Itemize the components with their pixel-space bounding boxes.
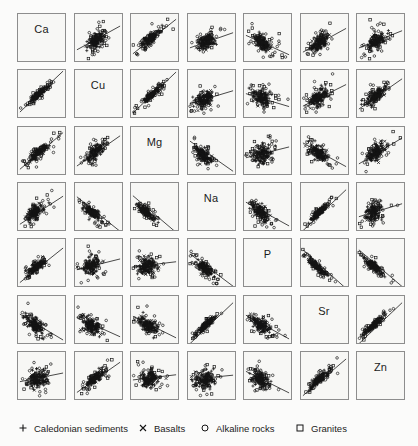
square-icon [295, 423, 305, 433]
panel-na-vs-mg [130, 182, 179, 231]
panel-zn-vs-mg [130, 351, 179, 400]
panel-mg-vs-na [187, 126, 236, 175]
panel-ca-vs-p [243, 13, 292, 62]
panel-sr-vs-cu [74, 295, 123, 344]
panel-sr-vs-na [187, 295, 236, 344]
panel-p-vs-sr [300, 238, 349, 287]
panel-diagonal-na: Na [187, 182, 236, 231]
panel-mg-vs-ca [17, 126, 66, 175]
panel-p-vs-ca [17, 238, 66, 287]
panel-ca-vs-sr [300, 13, 349, 62]
panel-sr-vs-ca [17, 295, 66, 344]
panel-cu-vs-sr [300, 69, 349, 118]
panel-mg-vs-sr [300, 126, 349, 175]
panel-ca-vs-zn [356, 13, 405, 62]
variable-label-zn: Zn [357, 361, 404, 373]
panel-diagonal-mg: Mg [130, 126, 179, 175]
panel-mg-vs-zn [356, 126, 405, 175]
scatterplot-matrix: CaCuMgNaPSrZn [17, 13, 408, 405]
panel-zn-vs-sr [300, 351, 349, 400]
panel-diagonal-ca: Ca [17, 13, 66, 62]
panel-cu-vs-p [243, 69, 292, 118]
panel-na-vs-sr [300, 182, 349, 231]
legend-item-caledonian-sediments: Caledonian sediments [18, 418, 128, 438]
panel-na-vs-p [243, 182, 292, 231]
panel-ca-vs-cu [74, 13, 123, 62]
panel-p-vs-mg [130, 238, 179, 287]
legend-label: Granites [311, 423, 347, 434]
panel-mg-vs-p [243, 126, 292, 175]
legend-label: Alkaline rocks [216, 423, 275, 434]
panel-zn-vs-na [187, 351, 236, 400]
variable-label-na: Na [188, 192, 235, 204]
panel-cu-vs-zn [356, 69, 405, 118]
legend-item-basalts: Basalts [138, 418, 185, 438]
legend-label: Basalts [154, 423, 185, 434]
panel-cu-vs-na [187, 69, 236, 118]
legend-item-granites: Granites [295, 418, 347, 438]
panel-sr-vs-mg [130, 295, 179, 344]
variable-label-cu: Cu [75, 79, 122, 91]
panel-ca-vs-na [187, 13, 236, 62]
panel-cu-vs-ca [17, 69, 66, 118]
cross-icon [138, 423, 148, 433]
panel-na-vs-zn [356, 182, 405, 231]
plus-icon [18, 423, 28, 433]
panel-ca-vs-mg [130, 13, 179, 62]
panel-mg-vs-cu [74, 126, 123, 175]
legend: Caledonian sedimentsBasaltsAlkaline rock… [0, 418, 418, 442]
variable-label-p: P [244, 248, 291, 260]
panel-sr-vs-zn [356, 295, 405, 344]
panel-p-vs-zn [356, 238, 405, 287]
panel-diagonal-zn: Zn [356, 351, 405, 400]
panel-p-vs-na [187, 238, 236, 287]
panel-p-vs-cu [74, 238, 123, 287]
panel-na-vs-ca [17, 182, 66, 231]
variable-label-mg: Mg [131, 136, 178, 148]
panel-zn-vs-p [243, 351, 292, 400]
circle-icon [200, 423, 210, 433]
panel-sr-vs-p [243, 295, 292, 344]
variable-label-sr: Sr [301, 305, 348, 317]
panel-zn-vs-ca [17, 351, 66, 400]
legend-item-alkaline-rocks: Alkaline rocks [200, 418, 275, 438]
panel-na-vs-cu [74, 182, 123, 231]
variable-label-ca: Ca [18, 23, 65, 35]
panel-cu-vs-mg [130, 69, 179, 118]
panel-diagonal-sr: Sr [300, 295, 349, 344]
panel-diagonal-cu: Cu [74, 69, 123, 118]
panel-diagonal-p: P [243, 238, 292, 287]
panel-zn-vs-cu [74, 351, 123, 400]
legend-label: Caledonian sediments [34, 423, 128, 434]
